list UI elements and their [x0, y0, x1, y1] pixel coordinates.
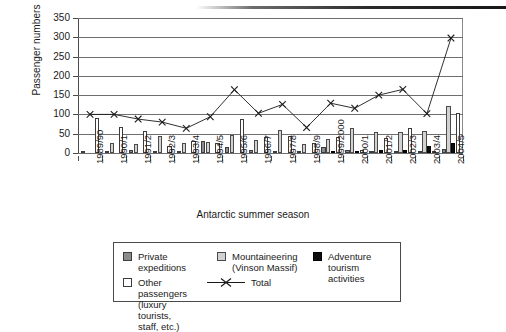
y-axis-tick-label: 50	[40, 129, 70, 139]
y-axis-tick-label: 200	[40, 71, 70, 81]
y-axis-tick	[73, 153, 78, 154]
x-axis-tick-label: 2004/5	[455, 135, 466, 164]
total-line-series	[78, 18, 463, 153]
y-axis-tick-label: 150	[40, 90, 70, 100]
x-axis-tick	[78, 156, 79, 161]
y-axis-tick-label: 0	[40, 148, 70, 158]
x-axis-tick-label: 1999/2000	[335, 119, 346, 164]
x-axis-tick-label: 2003/4	[431, 135, 442, 164]
legend-label-total: Total	[251, 277, 271, 288]
x-axis-tick-label: 1989/90	[94, 130, 105, 164]
dark-gray-square-icon	[123, 252, 132, 261]
chart-legend: Private expeditions Mountaineering (Vins…	[113, 242, 401, 302]
black-square-icon	[313, 252, 322, 261]
x-axis-tick-label: 2000/1	[359, 135, 370, 164]
x-marker-line-icon	[206, 277, 246, 288]
legend-label-private: Private expeditions	[138, 251, 186, 273]
x-axis-tick-label: 2002/3	[407, 135, 418, 164]
x-axis-tick-labels: 1989/901990/11991/21992/31993/41994/5199…	[78, 156, 463, 208]
x-axis-tick-label: 1991/2	[142, 135, 153, 164]
y-axis-tick-label: 100	[40, 109, 70, 119]
x-axis-tick-label: 1995/6	[238, 135, 249, 164]
x-axis-tick-label: 1994/5	[214, 135, 225, 164]
x-axis-tick-label: 1990/1	[118, 135, 129, 164]
legend-label-mountaineering: Mountaineering (Vinson Massif)	[232, 251, 298, 273]
x-axis-tick-label: 1998/9	[311, 135, 322, 164]
plot-area	[78, 18, 463, 153]
y-axis-tick-label: 350	[40, 13, 70, 23]
x-axis-tick-label: 1996/7	[262, 135, 273, 164]
light-gray-square-icon	[217, 252, 226, 261]
y-axis-tick-label: 300	[40, 32, 70, 42]
x-axis-tick-label: 2001/2	[383, 135, 394, 164]
y-axis-tick-label: 250	[40, 52, 70, 62]
x-axis-tick-label: 1992/3	[166, 135, 177, 164]
legend-label-adventure: Adventure tourism activities	[328, 251, 371, 284]
legend-label-other: Other passengers (luxury tourists, staff…	[138, 277, 187, 332]
white-square-icon	[123, 278, 132, 287]
x-axis-title: Antarctic summer season	[0, 209, 506, 220]
x-axis-tick-label: 1993/4	[190, 135, 201, 164]
x-axis-tick-label: 1997/8	[287, 135, 298, 164]
